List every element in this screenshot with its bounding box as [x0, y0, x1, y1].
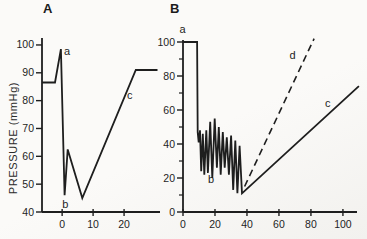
panel-b-x-tick-label: 100	[334, 218, 352, 230]
panel-a-annotation-b: b	[62, 198, 68, 210]
panel-b-annotation-d: d	[289, 49, 295, 61]
panel-a-annotation-c: c	[127, 89, 133, 101]
panel-b-y-tick-label: 80	[163, 70, 175, 82]
panel-a-annotation-a: a	[64, 45, 71, 57]
panel-b-x-tick-label: 40	[241, 218, 253, 230]
pressure-trace-a	[42, 49, 158, 198]
panel-b-x-tick-label: 0	[180, 218, 186, 230]
projected-trace-d	[245, 39, 315, 187]
panel-a-x-tick-label: 20	[118, 218, 130, 230]
panel-b-y-tick-label: 20	[163, 172, 175, 184]
figure-canvas: A B PRESSURE (mmHg) 40506070809010001020…	[0, 0, 367, 239]
panel-a-y-tick-label: 90	[22, 66, 34, 78]
panel-b-annotation-c: c	[325, 97, 331, 109]
dual-pressure-chart: 40506070809010001020abc02040608010002040…	[0, 0, 367, 239]
panel-b-y-tick-label: 0	[169, 206, 175, 218]
panel-b-x-tick-label: 20	[209, 218, 221, 230]
panel-a-y-tick-label: 80	[22, 94, 34, 106]
panel-a-y-tick-label: 50	[22, 178, 34, 190]
panel-b-y-tick-label: 40	[163, 138, 175, 150]
panel-a-y-tick-label: 40	[22, 206, 34, 218]
panel-b-y-tick-label: 60	[163, 104, 175, 116]
panel-b-x-tick-label: 60	[273, 218, 285, 230]
panel-b-x-tick-label: 80	[305, 218, 317, 230]
panel-a-x-tick-label: 10	[87, 218, 99, 230]
panel-a-y-tick-label: 60	[22, 150, 34, 162]
pressure-trace-b	[183, 42, 359, 193]
panel-a-x-tick-label: 0	[59, 218, 65, 230]
panel-b-annotation-b: b	[208, 173, 214, 185]
panel-a-y-tick-label: 100	[16, 38, 34, 50]
panel-b-annotation-a: a	[179, 23, 186, 35]
panel-b-y-tick-label: 100	[157, 36, 175, 48]
panel-a-y-tick-label: 70	[22, 122, 34, 134]
